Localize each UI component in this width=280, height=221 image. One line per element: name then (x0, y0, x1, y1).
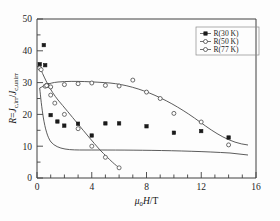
y-tick-label: 10 (23, 142, 33, 152)
x-tick-label: 0 (35, 182, 40, 192)
legend-marker-30k (204, 32, 207, 35)
series-markers-50k (38, 66, 231, 147)
y-minor-ticks (37, 35, 41, 162)
y-tick-label: 50 (23, 14, 33, 24)
legend-marker-50k (204, 40, 208, 44)
fit-curves (40, 70, 248, 168)
x-tick-labels: 0 4 8 12 16 (35, 182, 261, 192)
x-tick-label: 4 (89, 182, 94, 192)
x-tick-label: 16 (251, 182, 261, 192)
fit-curve-77k (41, 70, 120, 168)
legend-label-77k: R(77 K) (214, 45, 240, 54)
y-axis-title: R=Jc,irr/Jc,unirr (8, 72, 19, 124)
y-tick-label: 20 (23, 110, 33, 120)
y-tick-label: 40 (23, 46, 33, 56)
series-markers-30k (38, 43, 230, 139)
scatter-plot: 0 4 8 12 16 0 10 20 30 40 50 μ0H/T R=Jc,… (0, 0, 280, 221)
y-tick-labels: 0 10 20 30 40 50 (23, 14, 33, 183)
x-tick-label: 12 (197, 182, 207, 192)
chart-figure: 0 4 8 12 16 0 10 20 30 40 50 μ0H/T R=Jc,… (0, 0, 280, 221)
y-tick-label: 30 (23, 78, 33, 88)
x-axis-title: μ0H/T (134, 196, 159, 207)
legend-marker-77k (204, 48, 208, 52)
y-tick-label: 0 (27, 173, 32, 183)
x-major-ticks (37, 172, 256, 178)
legend: R(30 K) R(50 K) R(77 K) (196, 27, 259, 55)
fit-curve-50k (40, 81, 248, 145)
fit-curve-30k (40, 88, 248, 155)
x-tick-label: 8 (144, 182, 149, 192)
